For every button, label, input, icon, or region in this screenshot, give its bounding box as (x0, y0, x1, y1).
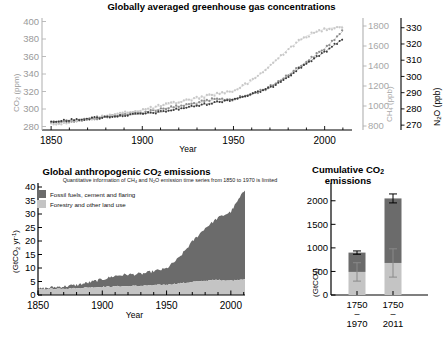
top-panel-plot: 1850190019502000Year28030032034036038040… (0, 0, 443, 165)
svg-text:2000: 2000 (220, 300, 243, 311)
n2o-axis-label-text: N (432, 120, 442, 126)
subtitle-part2: and N (137, 177, 153, 183)
svg-text:25: 25 (25, 222, 36, 233)
svg-text:1970: 1970 (346, 318, 367, 329)
svg-text:320: 320 (23, 86, 39, 97)
svg-text:0: 0 (30, 289, 35, 300)
panel-greenhouse-gas-concentrations: Globally averaged greenhouse gas concent… (0, 0, 443, 165)
svg-text:1000: 1000 (307, 242, 328, 253)
svg-text:280: 280 (406, 103, 422, 114)
svg-text:Year: Year (126, 310, 143, 320)
n2o-axis-label-text2: O (432, 110, 442, 117)
svg-text:1900: 1900 (91, 300, 114, 311)
legend-label-forestry: Forestry and other land use (50, 201, 126, 208)
n2o-axis-label-sub: 2 (435, 116, 442, 119)
legend-item-forestry: Forestry and other land use (37, 200, 135, 208)
svg-text:15: 15 (25, 249, 36, 260)
legend-swatch-forestry (37, 200, 46, 208)
svg-text:1950: 1950 (155, 300, 178, 311)
panel-anthropogenic-emissions: Global anthropogenic CO2 emissions Quant… (0, 165, 253, 338)
svg-text:1850: 1850 (40, 135, 63, 146)
emissions-ylabel-part3: ) (11, 230, 20, 233)
svg-text:800: 800 (368, 120, 384, 131)
svg-text:10: 10 (25, 262, 36, 273)
svg-text:35: 35 (25, 195, 36, 206)
svg-text:380: 380 (23, 33, 39, 44)
cumulative-title-line2: emissions (253, 176, 443, 186)
svg-text:1800: 1800 (368, 20, 389, 31)
co2-axis-label-text: CO (12, 100, 21, 112)
subtitle-part1: Quantitative information of CH (63, 177, 135, 183)
svg-text:2011: 2011 (383, 318, 403, 329)
svg-text:2000: 2000 (307, 195, 328, 206)
cumulative-title-part1: Cumulative CO (312, 164, 380, 175)
svg-text:310: 310 (406, 54, 422, 65)
n2o-axis-unit: (ppb) (432, 88, 442, 108)
svg-text:1850: 1850 (27, 300, 50, 311)
panel-cumulative-emissions: Cumulative CO2 emissions (GtCO2) 0500100… (253, 165, 443, 338)
legend-label-fossil-fuels: Fossil fuels, cement and flaring (50, 191, 135, 198)
svg-text:270: 270 (406, 119, 422, 130)
legend-item-fossil-fuels: Fossil fuels, cement and flaring (37, 190, 135, 198)
figure-root: Globally averaged greenhouse gas concent… (0, 0, 443, 338)
svg-text:280: 280 (23, 121, 39, 132)
emissions-ylabel-sup: -1 (11, 233, 17, 238)
emissions-title-part1: Global anthropogenic CO (43, 166, 158, 177)
emissions-ylabel-part1: (GtCO (11, 250, 20, 273)
svg-text:360: 360 (23, 51, 39, 62)
co2-axis-label-sub: 2 (15, 97, 21, 100)
svg-text:20: 20 (25, 235, 36, 246)
cumulative-title-sub: 2 (380, 168, 384, 175)
svg-text:1500: 1500 (307, 219, 328, 230)
cumulative-ylabel-part1: (GtCO (311, 274, 320, 297)
svg-text:400: 400 (23, 16, 39, 27)
cumulative-panel-title: Cumulative CO2 emissions (253, 165, 443, 186)
emissions-legend: Fossil fuels, cement and flaring Forestr… (37, 190, 135, 210)
cumulative-plot: 05001000150020001750–19701750–2011 (253, 165, 443, 338)
svg-text:1400: 1400 (368, 60, 389, 71)
emissions-title-part2: emissions (161, 166, 210, 177)
ch4-axis-label-sub: 4 (388, 107, 394, 110)
svg-text:1900: 1900 (131, 135, 154, 146)
ch4-axis-label: CH4 (ppb) (385, 86, 394, 122)
svg-text:300: 300 (406, 71, 422, 82)
emissions-ylabel-part2: yr (11, 238, 20, 247)
emissions-ylabel-sub: 2 (15, 247, 21, 250)
co2-axis-unit: (ppm) (12, 74, 21, 95)
n2o-axis-label: N2O (ppb) (432, 88, 442, 126)
svg-text:340: 340 (23, 68, 39, 79)
top-panel-title: Globally averaged greenhouse gas concent… (0, 2, 443, 12)
svg-text:1600: 1600 (368, 40, 389, 51)
cumulative-ylabel-part2: ) (311, 268, 320, 271)
ch4-axis-unit: (ppb) (385, 86, 394, 105)
cumulative-ylabel-sub: 2 (314, 271, 320, 274)
svg-text:300: 300 (23, 103, 39, 114)
svg-text:2000: 2000 (314, 135, 337, 146)
ch4-axis-label-text: CH (385, 110, 394, 122)
svg-text:0: 0 (323, 289, 328, 300)
svg-text:1950: 1950 (222, 135, 245, 146)
svg-text:290: 290 (406, 87, 422, 98)
svg-text:Year: Year (179, 144, 196, 154)
svg-text:5: 5 (30, 276, 35, 287)
svg-text:320: 320 (406, 38, 422, 49)
co2-axis-label: CO2 (ppm) (12, 74, 21, 112)
emissions-y-axis-label: (GtCO2 yr-1) (11, 230, 21, 273)
cumulative-y-axis-label: (GtCO2) (311, 268, 320, 297)
legend-swatch-fossil-fuels (37, 190, 46, 198)
svg-text:30: 30 (25, 208, 36, 219)
svg-text:330: 330 (406, 22, 422, 33)
